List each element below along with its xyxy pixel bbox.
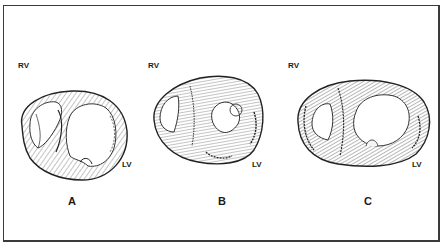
lv-label-c: LV bbox=[412, 161, 422, 169]
rv-label-b: RV bbox=[148, 62, 159, 70]
heart-section-b bbox=[150, 72, 266, 168]
panel-label-a: A bbox=[68, 196, 76, 207]
rv-label-c: RV bbox=[288, 62, 299, 70]
rv-label-a: RV bbox=[18, 62, 29, 70]
lv-label-a: LV bbox=[122, 161, 132, 169]
heart-section-c bbox=[294, 76, 434, 170]
panel-label-c: C bbox=[364, 196, 372, 207]
heart-section-a bbox=[12, 86, 132, 184]
lv-label-b: LV bbox=[252, 161, 262, 169]
panel-label-b: B bbox=[218, 196, 226, 207]
